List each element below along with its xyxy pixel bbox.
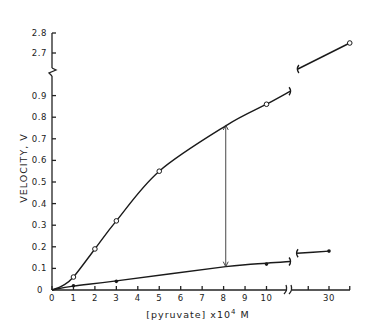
open-circle-marker xyxy=(157,169,162,174)
open-circle-marker xyxy=(71,275,76,280)
open-circle-marker xyxy=(264,102,269,107)
x-axis-title-unit: M xyxy=(237,309,250,320)
filled-circle-marker xyxy=(265,262,269,266)
x-tick-label: 6 xyxy=(178,293,184,303)
y-tick-label: 0.7 xyxy=(32,134,47,144)
y-tick-label: 0.2 xyxy=(32,242,47,252)
y-tick-label: 0.8 xyxy=(32,112,47,122)
x-tick-label: 2 xyxy=(92,293,98,303)
y-tick-label: 0.9 xyxy=(32,91,47,101)
x-tick-label: 8 xyxy=(221,293,227,303)
upper-curve-segment-low xyxy=(52,91,290,290)
y-tick-label: 0.1 xyxy=(32,263,47,273)
open-circle-marker xyxy=(347,41,352,46)
filled-circle-marker xyxy=(115,280,119,284)
y-tick-label: 0.5 xyxy=(32,177,47,187)
y-tick-label: 2.8 xyxy=(32,28,47,38)
x-tick-label: 0 xyxy=(49,293,55,303)
x-tick-label: 5 xyxy=(156,293,162,303)
axes xyxy=(49,33,350,294)
x-axis-title-text: [pyruvate] x10 xyxy=(146,309,231,320)
y-axis-break-mark xyxy=(49,68,56,76)
y-tick-label: 0.6 xyxy=(32,155,47,165)
x-axis-title: [pyruvate] x104 M xyxy=(146,308,249,320)
x-tick-label: 4 xyxy=(135,293,141,303)
velocity-vs-pyruvate-chart: 0123456789103000.10.20.30.40.50.60.70.80… xyxy=(0,0,378,333)
open-circle-marker xyxy=(93,247,98,252)
x-tick-label: 1 xyxy=(70,293,76,303)
y-axis-title: VELOCITY, V xyxy=(18,133,29,203)
x-tick-label: 30 xyxy=(323,293,335,303)
annotations xyxy=(223,125,228,267)
y-tick-label: 2.7 xyxy=(32,48,47,58)
y-tick-label: 0 xyxy=(37,285,43,295)
tick-marks: 0123456789103000.10.20.30.40.50.60.70.80… xyxy=(32,28,350,303)
x-tick-label: 3 xyxy=(113,293,119,303)
x-tick-label: 7 xyxy=(199,293,205,303)
filled-circle-marker xyxy=(327,249,331,253)
data-series xyxy=(52,41,352,290)
y-tick-label: 0.3 xyxy=(32,220,47,230)
x-tick-label: 9 xyxy=(242,293,248,303)
filled-circle-marker xyxy=(72,284,76,288)
lower-line-segment-high xyxy=(297,251,329,253)
x-tick-label: 10 xyxy=(260,293,272,303)
lower-line-segment-low xyxy=(52,261,290,290)
upper-curve-segment-high xyxy=(298,43,350,69)
open-circle-marker xyxy=(114,219,119,224)
y-tick-label: 0.4 xyxy=(32,199,47,209)
